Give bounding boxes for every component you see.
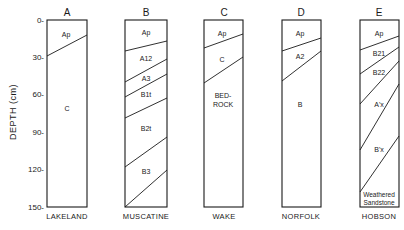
column-letter: C [220,7,227,18]
horizon-label: Ap [62,31,71,39]
profile-name: WAKE [212,212,235,221]
horizon-label: BED- [215,92,232,99]
horizon-label: Ap [375,30,384,38]
horizon-label: Ap [142,29,151,37]
horizon-label: A'x [374,101,384,108]
horizon-label: B2t [141,125,152,132]
horizon-label: Sandstone [363,199,394,206]
horizon-label: A12 [140,55,153,62]
tick-150: 150- [28,203,44,212]
profile-box [204,20,243,207]
column-letter: B [143,7,150,18]
column-letter: E [376,7,383,18]
column-a-lakeland: A Ap C LAKELAND [46,7,88,221]
profile-box [125,20,167,207]
profile-name: MUSCATINE [123,212,169,221]
column-letter: A [64,7,71,18]
tick-60: 60- [32,90,44,99]
column-letter: D [297,7,304,18]
profile-name: HOBSON [362,212,396,221]
horizon-label: A2 [296,53,305,60]
tick-90: 90- [32,128,44,137]
y-axis-label: DEPTH (cm) [8,84,18,140]
column-b-muscatine: B Ap A12 A3 B1t B2t B3 MUSCATINE [123,7,169,221]
profile-box [47,20,87,207]
column-c-wake: C Ap C BED- ROCK WAKE [204,7,243,221]
horizon-label: Weathered [363,191,395,198]
horizon-label: B1t [141,91,152,98]
horizon-label: ROCK [213,101,234,108]
column-d-norfolk: D Ap A2 B NORFOLK [282,7,321,221]
horizon-label: C [64,105,69,112]
horizon-label: B21 [373,50,386,57]
horizon-label: Ap [218,30,227,38]
horizon-label: B'x [374,146,384,153]
horizon-label: B3 [142,168,151,175]
horizon-label: B22 [373,69,386,76]
soil-profile-diagram: DEPTH (cm) 0- 30- 60- 90- 120- 150- A Ap… [0,0,404,230]
profile-name: NORFOLK [282,212,320,221]
horizon-label: Ap [296,30,305,38]
profile-box [282,20,321,207]
column-e-hobson: E Ap B21 B22 A'x B'x Weathered Sandstone… [360,7,399,221]
y-axis-ticks: 0- 30- 60- 90- 120- 150- [28,16,44,212]
horizon-label: C [219,56,224,63]
profile-name: LAKELAND [46,212,88,221]
horizon-label: A3 [142,75,151,82]
tick-0: 0- [37,16,44,25]
tick-120: 120- [28,165,44,174]
horizon-label: B [298,101,303,108]
tick-30: 30- [32,53,44,62]
